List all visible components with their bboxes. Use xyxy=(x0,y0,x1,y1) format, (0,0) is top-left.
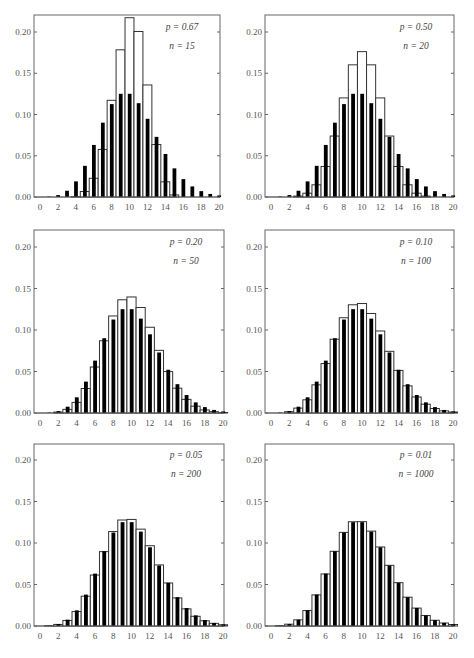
y-tick-label: 0.00 xyxy=(15,192,31,202)
x-tick-label: 2 xyxy=(287,631,292,641)
poisson-bar xyxy=(148,547,152,626)
x-tick-label: 12 xyxy=(145,418,154,428)
poisson-bar xyxy=(397,154,401,197)
poisson-bar xyxy=(433,407,437,413)
x-tick-label: 4 xyxy=(305,631,310,641)
poisson-bar xyxy=(424,186,428,197)
x-tick-label: 20 xyxy=(449,418,459,428)
poisson-bar xyxy=(424,402,428,413)
poisson-bar xyxy=(146,119,150,197)
poisson-bar xyxy=(92,145,96,197)
x-tick-label: 2 xyxy=(287,418,292,428)
poisson-bar xyxy=(388,565,392,626)
poisson-bar xyxy=(333,551,337,626)
x-tick-label: 20 xyxy=(215,202,225,212)
annotation-p: p = 0.67 xyxy=(165,22,200,32)
y-tick-label: 0.10 xyxy=(246,538,262,548)
x-tick-label: 2 xyxy=(56,418,61,428)
poisson-bar xyxy=(360,522,364,626)
poisson-bar xyxy=(415,395,419,413)
x-tick-label: 2 xyxy=(56,631,61,641)
poisson-bar xyxy=(297,407,301,413)
poisson-bar xyxy=(155,137,159,197)
x-tick-label: 10 xyxy=(125,202,135,212)
x-tick-label: 6 xyxy=(91,202,96,212)
x-tick-label: 20 xyxy=(219,631,229,641)
binomial-poisson-figure: 0.000.050.100.150.2002468101214161820p =… xyxy=(0,0,474,658)
x-tick-label: 8 xyxy=(111,631,116,641)
y-tick-label: 0.15 xyxy=(246,68,262,78)
y-tick-label: 0.05 xyxy=(246,580,262,590)
poisson-bar xyxy=(121,522,125,626)
annotation-n: n = 50 xyxy=(173,256,199,266)
poisson-bar xyxy=(306,397,310,413)
x-tick-label: 14 xyxy=(394,202,404,212)
x-tick-label: 8 xyxy=(342,631,347,641)
annotation-p: p = 0.05 xyxy=(169,450,203,460)
y-tick-label: 0.20 xyxy=(246,27,262,37)
poisson-bar xyxy=(74,181,78,197)
chart-panel-1: 0.000.050.100.150.2002468101214161820p =… xyxy=(15,15,224,212)
poisson-bar xyxy=(101,123,105,197)
chart-panel-4: 0.000.050.100.150.2002468101214161820p =… xyxy=(246,230,458,428)
y-tick-label: 0.00 xyxy=(15,621,31,631)
y-tick-label: 0.15 xyxy=(15,68,31,78)
poisson-bar xyxy=(406,168,410,197)
poisson-bar xyxy=(66,407,70,413)
x-tick-label: 18 xyxy=(200,418,210,428)
y-tick-label: 0.00 xyxy=(246,621,262,631)
poisson-bar xyxy=(157,352,161,413)
x-tick-label: 4 xyxy=(74,202,79,212)
poisson-bar xyxy=(139,319,143,413)
poisson-bar xyxy=(194,402,198,413)
poisson-bar xyxy=(333,338,337,413)
poisson-bar xyxy=(315,382,319,413)
poisson-bar xyxy=(119,94,123,197)
x-tick-label: 8 xyxy=(111,418,116,428)
y-tick-label: 0.05 xyxy=(246,367,262,377)
poisson-bar xyxy=(342,320,346,413)
poisson-bar xyxy=(84,382,88,413)
poisson-bar xyxy=(351,522,355,626)
poisson-bar xyxy=(388,352,392,413)
poisson-bar xyxy=(324,361,328,413)
annotation-n: n = 200 xyxy=(171,469,201,479)
y-tick-label: 0.05 xyxy=(15,580,31,590)
y-tick-label: 0.05 xyxy=(15,151,31,161)
poisson-bar xyxy=(351,309,355,413)
y-tick-label: 0.00 xyxy=(15,408,31,418)
poisson-bar xyxy=(185,395,189,413)
poisson-bar xyxy=(176,384,180,413)
x-tick-label: 18 xyxy=(430,418,440,428)
y-tick-label: 0.05 xyxy=(246,151,262,161)
x-tick-label: 0 xyxy=(38,631,43,641)
poisson-bar xyxy=(397,370,401,413)
y-tick-label: 0.15 xyxy=(15,284,31,294)
y-tick-label: 0.20 xyxy=(15,242,31,252)
poisson-bar xyxy=(203,407,207,413)
poisson-bar xyxy=(297,620,301,626)
x-tick-label: 0 xyxy=(38,202,43,212)
x-tick-label: 12 xyxy=(376,418,385,428)
x-tick-label: 16 xyxy=(412,631,422,641)
y-tick-label: 0.20 xyxy=(15,455,31,465)
x-tick-label: 10 xyxy=(127,631,137,641)
x-tick-label: 8 xyxy=(342,202,347,212)
poisson-bar xyxy=(433,191,437,197)
x-tick-label: 12 xyxy=(376,631,385,641)
x-tick-label: 0 xyxy=(269,631,274,641)
x-tick-label: 14 xyxy=(161,202,171,212)
x-tick-label: 14 xyxy=(164,418,174,428)
x-tick-label: 4 xyxy=(305,202,310,212)
x-tick-label: 0 xyxy=(38,418,43,428)
x-tick-label: 20 xyxy=(449,631,459,641)
poisson-bar xyxy=(342,104,346,197)
x-tick-label: 18 xyxy=(430,202,440,212)
y-tick-label: 0.20 xyxy=(246,455,262,465)
y-tick-label: 0.00 xyxy=(246,192,262,202)
poisson-bar xyxy=(397,583,401,626)
x-tick-label: 14 xyxy=(164,631,174,641)
poisson-bar xyxy=(111,533,115,626)
poisson-bar xyxy=(130,522,134,626)
chart-panel-3: 0.000.050.100.150.2002468101214161820p =… xyxy=(15,230,228,428)
